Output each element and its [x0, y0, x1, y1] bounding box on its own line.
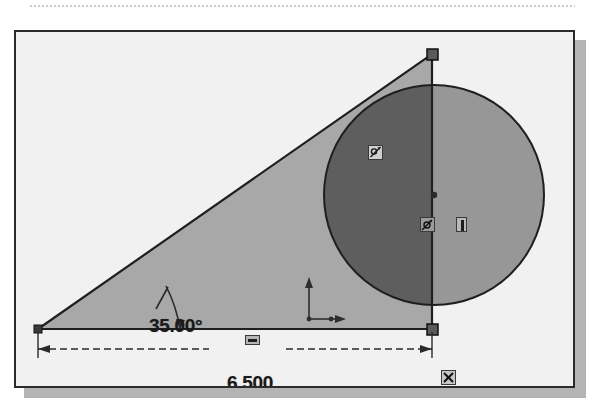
- vertical-relation-icon[interactable]: [456, 217, 467, 232]
- coincident-relation-icon[interactable]: [420, 217, 435, 232]
- tangent-relation-icon[interactable]: [368, 145, 383, 160]
- vertex-left-marker[interactable]: [34, 325, 42, 333]
- page-canvas: 35.00° 6.500: [0, 0, 591, 413]
- fixed-glyph-art: [442, 371, 455, 384]
- coincident-glyph-art: [421, 218, 434, 231]
- dimension-arrow-left: [38, 345, 50, 353]
- circle-center-point[interactable]: [431, 192, 437, 198]
- linear-dimension-label[interactable]: 6.500: [227, 372, 273, 388]
- tangent-glyph-art: [369, 146, 382, 159]
- fixed-relation-icon[interactable]: [441, 370, 456, 385]
- sketch-graphics-window[interactable]: 35.00° 6.500: [14, 30, 575, 388]
- page-top-rule: [30, 5, 575, 7]
- horizontal-relation-icon[interactable]: [245, 335, 260, 345]
- dimension-arrow-right: [420, 345, 432, 353]
- sketch-geometry[interactable]: [16, 32, 573, 386]
- angle-dimension-label[interactable]: 35.00°: [149, 315, 202, 337]
- vertex-top-marker[interactable]: [427, 49, 438, 60]
